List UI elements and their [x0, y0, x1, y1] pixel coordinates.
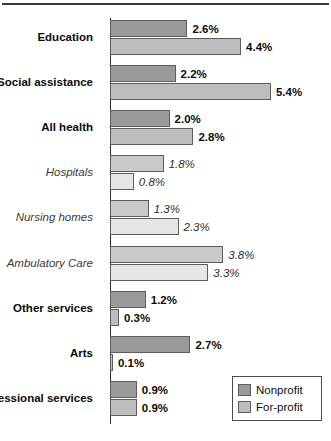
bar-value-forprofit: 0.3% [124, 312, 150, 324]
bar-forprofit [110, 83, 271, 100]
legend-item-for-profit: For-profit [238, 398, 316, 415]
row-label: Arts [0, 347, 93, 359]
bar-row: Hospitals1.8%0.8% [0, 155, 331, 190]
row-label: Education [0, 31, 93, 43]
bar-row: All health2.0%2.8% [0, 110, 331, 145]
bar-row: Arts2.7%0.1% [0, 336, 331, 371]
row-label: Social assistance [0, 76, 93, 88]
bar-nonprofit [110, 65, 176, 82]
header-rule [2, 3, 329, 5]
bar-forprofit [110, 218, 179, 235]
bar-value-forprofit: 5.4% [276, 86, 302, 98]
bar-forprofit [110, 399, 137, 416]
bar-nonprofit [110, 381, 137, 398]
legend-label-for-profit: For-profit [256, 401, 303, 413]
chart-page: Education2.6%4.4%Social assistance2.2%5.… [0, 0, 331, 441]
bar-value-nonprofit: 3.8% [228, 249, 254, 261]
bar-row: Social assistance2.2%5.4% [0, 65, 331, 100]
bar-value-forprofit: 3.3% [213, 267, 239, 279]
bar-row: Education2.6%4.4% [0, 20, 331, 55]
bar-value-nonprofit: 1.2% [151, 294, 177, 306]
bar-value-nonprofit: 2.7% [195, 339, 221, 351]
bar-value-forprofit: 0.8% [139, 176, 165, 188]
bar-nonprofit [110, 200, 149, 217]
bar-row: Ambulatory Care3.8%3.3% [0, 246, 331, 281]
bar-nonprofit [110, 246, 223, 263]
bar-chart-plot: Education2.6%4.4%Social assistance2.2%5.… [0, 14, 331, 424]
legend-swatch-for-profit [238, 401, 251, 413]
row-label: Nursing homes [0, 211, 93, 223]
bar-value-forprofit: 4.4% [246, 41, 272, 53]
bar-value-nonprofit: 0.9% [142, 384, 168, 396]
bar-forprofit [110, 173, 134, 190]
bar-value-forprofit: 2.8% [198, 131, 224, 143]
row-label: Ambulatory Care [0, 257, 93, 269]
bar-forprofit [110, 38, 241, 55]
bar-value-forprofit: 2.3% [184, 221, 210, 233]
bar-nonprofit [110, 155, 164, 172]
bar-row: Nursing homes1.3%2.3% [0, 200, 331, 235]
bar-nonprofit [110, 20, 187, 37]
bar-forprofit [110, 264, 208, 281]
chart-legend: Nonprofit For-profit [232, 376, 322, 421]
bar-nonprofit [110, 336, 190, 353]
row-label: Professional services [0, 392, 93, 404]
row-label: Hospitals [0, 166, 93, 178]
bar-value-nonprofit: 2.6% [192, 23, 218, 35]
bar-forprofit [110, 128, 193, 145]
row-label: Other services [0, 302, 93, 314]
bar-value-forprofit: 0.9% [142, 402, 168, 414]
bar-forprofit [110, 354, 113, 371]
bar-value-nonprofit: 2.2% [181, 68, 207, 80]
legend-swatch-nonprofit [238, 384, 251, 396]
bar-value-nonprofit: 1.3% [154, 203, 180, 215]
bar-row: Other services1.2%0.3% [0, 291, 331, 326]
bar-nonprofit [110, 291, 146, 308]
bar-value-nonprofit: 2.0% [175, 113, 201, 125]
legend-item-nonprofit: Nonprofit [238, 381, 316, 398]
legend-label-nonprofit: Nonprofit [256, 384, 303, 396]
bar-value-forprofit: 0.1% [118, 357, 144, 369]
bar-value-nonprofit: 1.8% [169, 158, 195, 170]
bar-nonprofit [110, 110, 170, 127]
row-label: All health [0, 121, 93, 133]
bar-forprofit [110, 309, 119, 326]
